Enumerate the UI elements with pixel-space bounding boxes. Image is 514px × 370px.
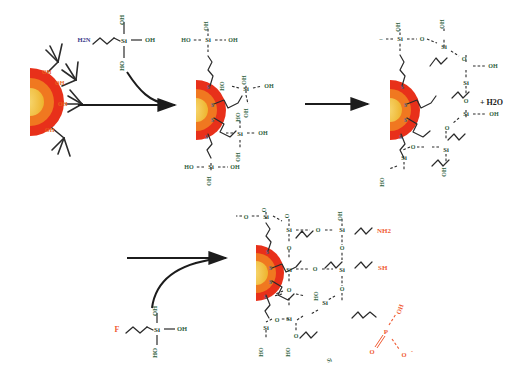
si-atom: Si — [263, 213, 269, 220]
phosphonate-o-minus-label: O — [401, 351, 406, 358]
oxygen-bridge: O — [464, 98, 469, 104]
oxygen-bridge: O — [411, 144, 416, 150]
reagent-functional-silane: Si OH HO OH F — [115, 306, 188, 358]
oxygen-bridge: O — [294, 333, 299, 339]
si-atom: Si — [154, 326, 160, 334]
oxygen-bridge: O — [420, 36, 425, 42]
reagent-aminosilane: Si OH HO OH H2N — [78, 15, 156, 71]
oxygen-bridge: O — [284, 213, 290, 218]
linkage-label: S — [264, 294, 267, 300]
linkage-label: S — [207, 84, 210, 90]
ho-label: HO — [184, 164, 194, 170]
oxygen-bridge: O — [316, 227, 321, 233]
oxygen-bridge: O — [313, 266, 318, 272]
oh-label: OH — [203, 21, 209, 31]
oh-label: OH — [45, 127, 55, 133]
product-functional-groups: NH2 SH — [377, 227, 392, 272]
oxygen-bridge: O — [340, 245, 345, 251]
si-atom: Si — [401, 154, 407, 161]
si-atom: Si — [121, 37, 127, 45]
phosphonate-oh-label: OH — [395, 303, 405, 315]
linkage-label: S — [266, 249, 269, 255]
reaction-arrow-1 — [78, 72, 175, 105]
oxygen-bridge: O — [445, 125, 450, 131]
oh-label: OH — [42, 69, 52, 75]
linkage-label: S — [205, 134, 208, 140]
si-atom: Si — [322, 299, 328, 306]
ho-label: HO — [235, 112, 241, 122]
si-atom: Si — [208, 163, 214, 170]
oh-label: OH — [235, 152, 241, 162]
ho-label: HO — [258, 347, 264, 357]
ho-label: HO — [379, 177, 385, 187]
water-byproduct: + H2O — [480, 98, 503, 107]
oh-label: OH — [55, 80, 65, 86]
functional-group-label: F — [115, 325, 120, 334]
si-atom: Si — [205, 36, 211, 43]
si-atom: Si — [286, 266, 292, 273]
si-atom: Si — [463, 79, 469, 86]
oh-right: OH — [145, 36, 155, 43]
oh-label: OH — [206, 176, 212, 186]
oh-right: OH — [177, 325, 187, 332]
oh-label: OH — [228, 37, 238, 43]
si-atom: Si — [263, 324, 269, 331]
amine-terminal-label: NH2 — [377, 227, 392, 235]
linkage-label: S — [404, 102, 407, 108]
bond-dash: – — [379, 36, 384, 42]
oh-label: OH — [395, 22, 401, 32]
oh-label: OH — [439, 19, 445, 29]
oh-label: OH — [230, 164, 240, 170]
si-atom: Si — [243, 85, 249, 92]
reaction-arrow-3 — [127, 258, 226, 308]
oh-top: OH — [118, 15, 125, 25]
oh-label: OH — [264, 83, 274, 89]
thiol-terminal-label: SH — [378, 264, 388, 272]
oxygen-bridge: O — [340, 286, 345, 292]
linkage-label: S — [269, 279, 272, 285]
oxygen-bridge: O — [287, 287, 292, 293]
oxygen-bridge: O — [287, 245, 292, 251]
oh-label: OH — [488, 63, 498, 69]
amine-label: H2N — [78, 36, 91, 43]
oh-label: OH — [243, 108, 249, 118]
oh-top: OH — [151, 306, 158, 316]
ho-bottom: HO — [151, 348, 158, 358]
si-atom: Si — [237, 130, 243, 137]
oxygen-bridge: O — [275, 317, 280, 323]
linkage-label: S — [401, 84, 404, 90]
si-atom: Si — [286, 315, 292, 322]
oh-label: OH — [258, 130, 268, 136]
ho-bottom: HO — [118, 61, 125, 71]
si-atom: Si — [286, 226, 292, 233]
si-atom: Si — [463, 110, 469, 117]
phosphonate-group: P OH O - O — [369, 303, 413, 358]
ho-label: HO — [313, 291, 319, 301]
ho-label: HO — [181, 37, 191, 43]
oh-label: OH — [58, 101, 68, 107]
si-atom: Si — [443, 146, 449, 153]
linkage-label: S — [404, 117, 407, 123]
oxygen-bridge: O — [261, 207, 267, 212]
intermediate-labels: Si OH HO OH Si OH HO OH OH Si HO OH OH S… — [181, 21, 274, 186]
reaction-scheme: OH OH OH OH Si OH HO OH H2N — [0, 0, 514, 370]
si-extra-label: Si — [326, 356, 333, 363]
oxygen-bridge: O — [244, 214, 249, 220]
phosphonate-charge-label: - — [411, 348, 413, 354]
linkage-label: S — [211, 102, 214, 108]
ho-label: HO — [285, 347, 291, 357]
si-atom: Si — [441, 43, 447, 50]
oxygen-bridge: O — [462, 56, 467, 62]
si-atom: Si — [339, 226, 345, 233]
oh-label: OH — [441, 167, 447, 177]
oh-label: OH — [337, 211, 343, 221]
nanoparticle-condensed — [390, 80, 420, 140]
oh-label: OH — [241, 75, 247, 85]
si-atom: Si — [397, 35, 403, 42]
phosphonate-double-o-label: O — [369, 348, 374, 355]
linkage-label: S — [269, 265, 272, 271]
ho-label: HO — [219, 81, 225, 91]
oh-label: OH — [489, 111, 499, 117]
linkage-label: S — [399, 134, 402, 140]
linkage-label: S — [211, 117, 214, 123]
